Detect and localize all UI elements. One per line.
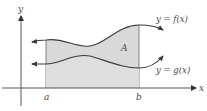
region-area-label: A xyxy=(120,43,128,53)
x-axis-label: x xyxy=(199,83,204,93)
area-between-curves-diagram: y x a b A f y = f(x) y = g(x) xyxy=(0,0,207,111)
curve-g-label: y = g(x) xyxy=(155,65,190,75)
bound-a-label: a xyxy=(44,92,49,102)
curve-f-label: f y = f(x) xyxy=(155,14,188,24)
curve-f-left-arrow xyxy=(32,42,36,43)
y-axis-label: y xyxy=(17,4,24,14)
bound-b-label: b xyxy=(136,92,142,102)
